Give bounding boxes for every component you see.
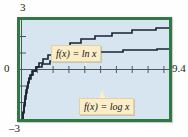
log-function-graph-figure: 3 0 –3 9.4 <box>0 0 188 137</box>
x-axis-max-label: 9.4 <box>172 63 186 74</box>
callout-label-log: f(x) = log x <box>79 98 134 115</box>
callout-log-text: f(x) = log x <box>84 101 129 112</box>
y-axis-max-label: 3 <box>20 2 26 13</box>
origin-label: 0 <box>4 63 10 74</box>
y-axis-min-label: –3 <box>9 123 20 134</box>
callout-label-ln: f(x) = ln x <box>51 45 101 62</box>
callout-ln-text: f(x) = ln x <box>56 48 96 59</box>
calculator-screen-frame: f(x) = ln x f(x) = log x <box>17 17 172 122</box>
plot-area: f(x) = ln x f(x) = log x <box>20 20 169 119</box>
